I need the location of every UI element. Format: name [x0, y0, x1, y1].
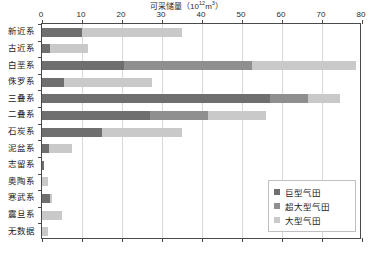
legend-item[interactable]: 大型气田: [274, 213, 352, 227]
bar-segment: [42, 61, 124, 70]
x-tick-mark: [202, 238, 203, 242]
y-category-label: 白垩系: [8, 60, 35, 69]
x-tick-label: 0: [39, 10, 43, 19]
bar-segment: [42, 28, 82, 37]
bar-segment: [124, 61, 252, 70]
y-category-label: 古近系: [8, 43, 35, 52]
y-category-label: 石炭系: [8, 127, 35, 136]
x-tick-mark: [82, 238, 83, 242]
x-tick-mark: [242, 238, 243, 242]
legend-swatch-icon: [274, 217, 280, 223]
gas-field-reserves-chart: 可采储量（1012m3） 01020304050607080 新近系古近系白垩系…: [0, 0, 373, 255]
bar-row: [42, 28, 362, 37]
y-tick-mark: [38, 41, 42, 42]
bar-segment: [42, 111, 150, 120]
bar-segment: [150, 111, 208, 120]
y-tick-mark: [38, 74, 42, 75]
bar-segment: [42, 78, 64, 87]
x-tick-mark: [42, 20, 43, 24]
y-tick-mark: [38, 223, 42, 224]
bar-segment: [42, 177, 48, 186]
bar-segment: [82, 28, 182, 37]
x-tick-label: 20: [117, 10, 126, 19]
bar-segment: [50, 194, 52, 203]
legend-label: 大型气田: [285, 214, 321, 226]
x-tick-label: 80: [357, 10, 366, 19]
x-tick-label: 60: [277, 10, 286, 19]
bar-segment: [308, 94, 340, 103]
bar-segment: [49, 144, 72, 153]
x-tick-label: 10: [77, 10, 86, 19]
x-tick-label: 30: [157, 10, 166, 19]
legend: 巨型气田超大型气田大型气田: [268, 180, 356, 232]
x-axis-tick-labels: 01020304050607080: [41, 0, 361, 14]
y-tick-mark: [38, 124, 42, 125]
bar-row: [42, 44, 362, 53]
x-tick-mark: [162, 20, 163, 24]
x-tick-mark: [362, 238, 363, 242]
y-category-label: 三叠系: [8, 93, 35, 102]
x-tick-label: 50: [237, 10, 246, 19]
legend-item[interactable]: 超大型气田: [274, 199, 352, 213]
y-tick-mark: [38, 174, 42, 175]
bar-row: [42, 111, 362, 120]
x-tick-mark: [282, 238, 283, 242]
x-tick-mark: [322, 20, 323, 24]
y-category-label: 志留系: [8, 160, 35, 169]
bar-segment: [252, 61, 356, 70]
y-tick-mark: [38, 190, 42, 191]
y-category-label: 奥陶系: [8, 176, 35, 185]
x-tick-mark: [42, 238, 43, 242]
bar-segment: [64, 78, 152, 87]
bar-segment: [42, 227, 48, 236]
bar-segment: [102, 128, 182, 137]
y-tick-mark: [38, 57, 42, 58]
bar-segment: [42, 144, 49, 153]
bar-row: [42, 78, 362, 87]
bar-segment: [270, 94, 308, 103]
y-category-label: 震旦系: [8, 210, 35, 219]
legend-swatch-icon: [274, 203, 280, 209]
y-tick-mark: [38, 157, 42, 158]
bar-segment: [42, 128, 102, 137]
bar-row: [42, 128, 362, 137]
bar-segment: [42, 211, 62, 220]
x-tick-mark: [242, 20, 243, 24]
bar-segment: [50, 44, 88, 53]
legend-swatch-icon: [274, 189, 280, 195]
x-tick-label: 70: [317, 10, 326, 19]
bar-segment: [42, 161, 44, 170]
bar-segment: [42, 44, 50, 53]
y-category-label: 泥盆系: [8, 143, 35, 152]
y-category-label: 侏罗系: [8, 77, 35, 86]
x-tick-mark: [122, 20, 123, 24]
bar-row: [42, 161, 362, 170]
y-category-label: 寒武系: [8, 193, 35, 202]
bar-segment: [208, 111, 266, 120]
x-tick-mark: [362, 20, 363, 24]
bar-row: [42, 94, 362, 103]
x-tick-mark: [122, 238, 123, 242]
x-tick-mark: [162, 238, 163, 242]
y-tick-mark: [38, 207, 42, 208]
y-category-label: 无数据: [8, 226, 35, 235]
x-tick-mark: [322, 238, 323, 242]
y-category-label: 新近系: [8, 27, 35, 36]
y-tick-mark: [38, 107, 42, 108]
y-tick-mark: [38, 24, 42, 25]
legend-item[interactable]: 巨型气田: [274, 185, 352, 199]
x-tick-label: 40: [197, 10, 206, 19]
x-tick-mark: [82, 20, 83, 24]
legend-label: 超大型气田: [285, 200, 330, 212]
y-tick-mark: [38, 140, 42, 141]
x-tick-mark: [282, 20, 283, 24]
bar-row: [42, 144, 362, 153]
bar-segment: [42, 94, 270, 103]
bar-row: [42, 61, 362, 70]
y-category-label: 二叠系: [8, 110, 35, 119]
y-tick-mark: [38, 90, 42, 91]
legend-label: 巨型气田: [285, 186, 321, 198]
y-axis-category-labels: 新近系古近系白垩系侏罗系三叠系二叠系石炭系泥盆系志留系奥陶系寒武系震旦系无数据: [0, 23, 39, 239]
bar-segment: [42, 194, 50, 203]
x-tick-mark: [202, 20, 203, 24]
